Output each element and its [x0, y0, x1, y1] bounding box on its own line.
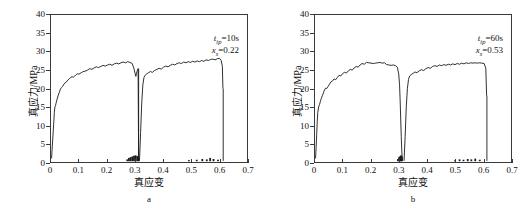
baseline-noise-mark — [474, 159, 476, 162]
y-tick-label: 20 — [4, 85, 50, 94]
y-tick-label-wrap: 15 — [0, 103, 50, 112]
y-tick-label: 30 — [268, 47, 314, 56]
x-tick-mark — [50, 159, 51, 163]
y-tick-label: 10 — [268, 122, 314, 131]
y-tick-label-wrap: 20 — [0, 85, 50, 94]
panel-caption-b: b — [314, 194, 512, 204]
y-tick-label-wrap: 25 — [264, 66, 314, 75]
x-tick-label: 0.5 — [176, 165, 206, 175]
y-tick-label-wrap: 30 — [264, 47, 314, 56]
x-axis-title: 真应变 — [314, 177, 512, 188]
baseline-noise-mark — [131, 156, 133, 161]
figure-root: 真应力/MPa 0510152025303540 tip=10s xs=0.22… — [0, 0, 527, 211]
x-tick-label: 0.1 — [63, 165, 93, 175]
y-tick-label-wrap: 35 — [0, 29, 50, 38]
y-tick-label: 10 — [4, 122, 50, 131]
baseline-noise-mark — [128, 158, 130, 161]
x-tick-mark — [484, 159, 485, 163]
baseline-noise-mark — [470, 159, 472, 161]
baseline-noise-mark — [479, 160, 481, 161]
annotation-value-t: =60s — [485, 33, 503, 43]
y-tick-label-wrap: 10 — [0, 122, 50, 131]
y-tick-label: 5 — [4, 140, 50, 149]
x-tick-mark — [135, 159, 136, 163]
x-tick-mark — [191, 159, 192, 163]
y-tick-label-wrap: 15 — [264, 103, 314, 112]
baseline-noise-mark — [201, 159, 203, 161]
curve-loading-segment-1 — [316, 62, 403, 160]
baseline-noise-mark — [206, 159, 208, 161]
baseline-noise-mark — [467, 159, 469, 161]
y-tick-label-wrap: 30 — [0, 47, 50, 56]
curve-loading-segment-2 — [139, 58, 222, 161]
annotation-xs-a: xs=0.22 — [212, 45, 239, 59]
x-tick-label: 0 — [299, 165, 329, 175]
x-tick-label: 0.2 — [356, 165, 386, 175]
y-tick-label: 40 — [4, 10, 50, 19]
x-tick-label: 0.7 — [233, 165, 263, 175]
y-tick-label: 15 — [4, 103, 50, 112]
curve-loading-segment-2 — [404, 63, 487, 161]
baseline-noise-mark — [130, 157, 132, 161]
x-tick-mark — [371, 159, 372, 163]
panel-b: 真应力/MPa 0510152025303540 tip=60s xs=0.53… — [264, 0, 527, 211]
annotation-value-x: =0.22 — [218, 45, 239, 55]
baseline-noise-mark — [217, 160, 219, 161]
y-tick-label: 25 — [4, 66, 50, 75]
x-tick-label: 0.4 — [412, 165, 442, 175]
x-tick-mark — [399, 159, 400, 163]
annotation-value-x: =0.53 — [482, 45, 503, 55]
y-tick-label-wrap: 40 — [0, 10, 50, 19]
x-tick-mark — [248, 159, 249, 163]
y-tick-label: 15 — [268, 103, 314, 112]
y-tick-label: 30 — [4, 47, 50, 56]
x-tick-label: 0.7 — [497, 165, 527, 175]
panel-a: 真应力/MPa 0510152025303540 tip=10s xs=0.22… — [0, 0, 263, 211]
y-tick-label-wrap: 5 — [0, 140, 50, 149]
x-tick-label: 0.3 — [120, 165, 150, 175]
x-tick-label: 0.3 — [384, 165, 414, 175]
baseline-noise-mark — [401, 157, 403, 161]
x-tick-label: 0.1 — [327, 165, 357, 175]
x-tick-mark — [427, 159, 428, 163]
y-tick-label: 5 — [268, 140, 314, 149]
x-tick-label: 0.6 — [205, 165, 235, 175]
curve-loading-segment-1 — [52, 62, 139, 161]
y-tick-label: 25 — [268, 66, 314, 75]
x-tick-mark — [220, 159, 221, 163]
y-tick-label: 35 — [268, 29, 314, 38]
y-tick-label: 35 — [4, 29, 50, 38]
baseline-noise-mark — [196, 160, 198, 161]
y-tick-label-wrap: 25 — [0, 66, 50, 75]
x-tick-label: 0.4 — [148, 165, 178, 175]
y-tick-label-wrap: 20 — [264, 85, 314, 94]
x-tick-mark — [107, 159, 108, 163]
baseline-noise-mark — [213, 159, 215, 161]
x-tick-label: 0.2 — [92, 165, 122, 175]
x-tick-mark — [78, 159, 79, 163]
x-axis-title: 真应变 — [50, 177, 248, 188]
x-tick-label: 0.5 — [440, 165, 470, 175]
baseline-noise-mark — [126, 159, 128, 161]
annotation-xs-b: xs=0.53 — [476, 45, 503, 59]
baseline-noise-mark — [463, 160, 465, 161]
x-tick-mark — [342, 159, 343, 163]
annotation-value-t: =10s — [221, 33, 239, 43]
baseline-noise-mark — [138, 158, 140, 161]
y-tick-label-wrap: 35 — [264, 29, 314, 38]
baseline-noise-mark — [188, 160, 190, 161]
y-tick-label-wrap: 10 — [264, 122, 314, 131]
x-tick-mark — [163, 159, 164, 163]
plot-frame-b: tip=60s xs=0.53 — [314, 14, 512, 163]
baseline-noise-mark — [459, 159, 461, 161]
y-tick-label-wrap: 40 — [264, 10, 314, 19]
y-tick-label: 20 — [268, 85, 314, 94]
y-tick-label: 40 — [268, 10, 314, 19]
x-tick-mark — [455, 159, 456, 163]
plot-frame-a: tip=10s xs=0.22 — [50, 14, 248, 163]
x-tick-mark — [314, 159, 315, 163]
panel-caption-a: a — [50, 194, 248, 204]
x-tick-label: 0.6 — [469, 165, 499, 175]
baseline-noise-mark — [209, 158, 211, 161]
x-tick-label: 0 — [35, 165, 65, 175]
